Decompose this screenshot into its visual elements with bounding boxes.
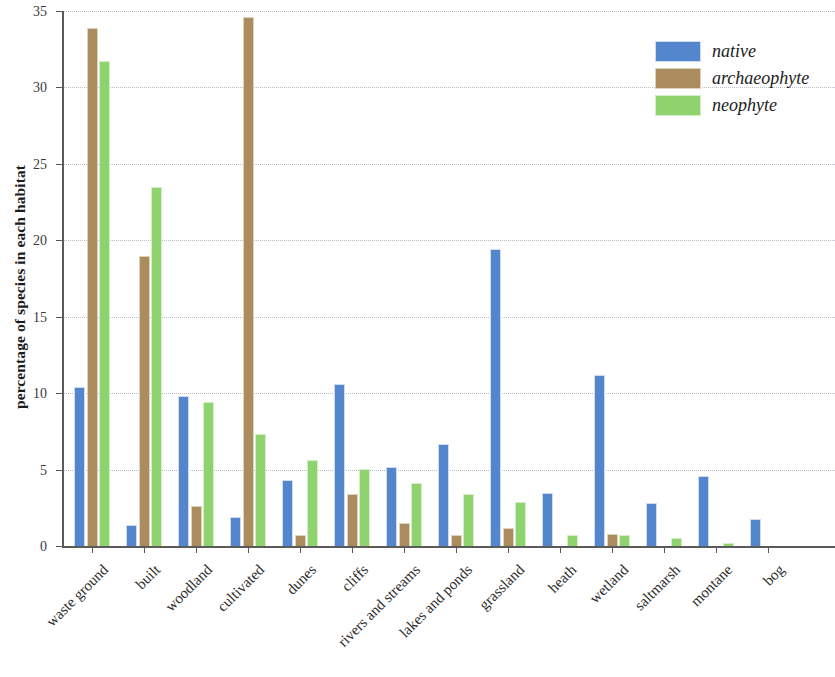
y-axis-title: percentage of species in each habitat (11, 117, 29, 457)
x-axis-tick (248, 546, 249, 553)
x-axis-tick (456, 546, 457, 553)
bar-native (230, 517, 241, 546)
chart-legend: nativearchaeophyteneophyte (655, 38, 809, 119)
y-axis-tick-label: 20 (33, 233, 47, 249)
bar-neophyte (723, 543, 734, 546)
y-axis-tick: 20 (56, 240, 63, 241)
bar-native (74, 387, 85, 546)
y-axis-tick-label: 5 (40, 463, 47, 479)
bar-neophyte (411, 483, 422, 546)
x-axis-tick (508, 546, 509, 553)
legend-swatch-native (655, 41, 701, 62)
bar-neophyte (255, 434, 266, 546)
bar-archaeophyte (191, 506, 202, 546)
gridline (62, 164, 835, 165)
x-axis-tick (144, 546, 145, 553)
legend-swatch-archaeophyte (655, 68, 701, 89)
x-axis-line (62, 546, 835, 548)
x-axis-tick (664, 546, 665, 553)
bar-neophyte (99, 61, 110, 546)
y-axis-tick: 25 (56, 164, 63, 165)
y-axis-tick-label: 25 (33, 157, 47, 173)
bar-neophyte (463, 494, 474, 546)
y-axis-tick: 5 (56, 470, 63, 471)
y-axis-tick-label: 15 (33, 310, 47, 326)
bar-native (490, 249, 501, 546)
y-axis-tick: 15 (56, 317, 63, 318)
bar-native (126, 525, 137, 546)
legend-item-neophyte: neophyte (655, 92, 809, 119)
x-axis-tick (196, 546, 197, 553)
y-axis-tick: 30 (56, 87, 63, 88)
bar-archaeophyte (295, 535, 306, 546)
gridline (62, 11, 835, 12)
x-axis-tick (716, 546, 717, 553)
bar-archaeophyte (347, 494, 358, 546)
bar-neophyte (671, 538, 682, 546)
bar-archaeophyte (139, 256, 150, 546)
y-axis-line (62, 11, 64, 546)
bar-neophyte (151, 187, 162, 546)
x-axis-tick (300, 546, 301, 553)
bar-neophyte (307, 460, 318, 546)
y-axis-tick-label: 0 (40, 539, 47, 555)
legend-label-native: native (712, 41, 756, 62)
bar-archaeophyte (87, 28, 98, 546)
bar-neophyte (619, 535, 630, 546)
bar-native (594, 375, 605, 546)
y-axis-tick: 35 (56, 11, 63, 12)
bar-native (282, 480, 293, 546)
gridline (62, 240, 835, 241)
y-axis-tick-label: 30 (33, 80, 47, 96)
bar-native (438, 444, 449, 546)
bar-neophyte (359, 469, 370, 546)
x-axis-tick (768, 546, 769, 553)
bar-archaeophyte (399, 523, 410, 546)
x-axis-tick (92, 546, 93, 553)
legend-item-archaeophyte: archaeophyte (655, 65, 809, 92)
bar-native (334, 384, 345, 546)
bar-archaeophyte (243, 17, 254, 546)
y-axis-tick: 0 (56, 546, 63, 547)
bar-neophyte (567, 535, 578, 546)
x-axis-tick (612, 546, 613, 553)
gridline (62, 317, 835, 318)
bar-neophyte (515, 502, 526, 546)
bar-native (542, 493, 553, 547)
x-axis-tick (560, 546, 561, 553)
legend-item-native: native (655, 38, 809, 65)
bar-native (178, 396, 189, 546)
legend-label-neophyte: neophyte (712, 95, 777, 116)
bar-archaeophyte (503, 528, 514, 546)
bar-native (386, 467, 397, 546)
x-axis-tick (404, 546, 405, 553)
bar-archaeophyte (451, 535, 462, 546)
bar-neophyte (203, 402, 214, 546)
bar-native (646, 503, 657, 546)
y-axis-tick: 10 (56, 393, 63, 394)
bar-native (750, 519, 761, 547)
gridline (62, 393, 835, 394)
bar-chart: percentage of species in each habitat 05… (0, 0, 835, 677)
y-axis-tick-label: 10 (33, 386, 47, 402)
legend-label-archaeophyte: archaeophyte (712, 68, 809, 89)
x-axis-tick (352, 546, 353, 553)
y-axis-tick-label: 35 (33, 4, 47, 20)
legend-swatch-neophyte (655, 95, 701, 116)
bar-archaeophyte (607, 534, 618, 546)
bar-native (698, 476, 709, 546)
